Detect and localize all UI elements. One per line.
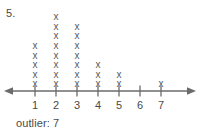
number-line-axis: [0, 84, 200, 98]
axis-tick-label-4: 4: [88, 99, 108, 111]
dot-plot-worksheet-item: 5. xxxxxxxxxxxxxxxxxxxxxxxxxx 1234567 ou…: [0, 0, 200, 135]
axis-left-arrow-icon: [4, 87, 13, 95]
dot-stack-1: xxxxx: [25, 41, 45, 89]
axis-tick-labels: 1234567: [0, 99, 200, 113]
axis-tick-label-2: 2: [46, 99, 66, 111]
axis-tick-label-6: 6: [130, 99, 150, 111]
axis-right-arrow-icon: [187, 87, 196, 95]
axis-tick-label-1: 1: [25, 99, 45, 111]
axis-tick-label-5: 5: [109, 99, 129, 111]
dot-stack-2: xxxxxxxx: [46, 12, 66, 89]
dot-stack-3: xxxxxxx: [67, 22, 87, 89]
axis-tick-label-7: 7: [151, 99, 171, 111]
dot-plot-marks-area: xxxxxxxxxxxxxxxxxxxxxxxxxx: [0, 0, 200, 89]
answer-text: outlier: 7: [16, 117, 59, 130]
axis-svg: [0, 84, 200, 98]
axis-tick-label-3: 3: [67, 99, 87, 111]
